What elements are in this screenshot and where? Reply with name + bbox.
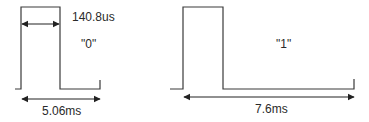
bit1-period-label: 7.6ms <box>255 102 288 116</box>
bit0-waveform: 140.8us "0" 5.06ms <box>15 7 115 118</box>
bit-encoding-diagram: 140.8us "0" 5.06ms "1" 7.6ms <box>0 0 369 122</box>
bit1-label: "1" <box>276 37 291 51</box>
bit1-pulse-line <box>170 7 354 89</box>
bit0-label: "0" <box>81 37 96 51</box>
bit0-period-label: 5.06ms <box>42 104 81 118</box>
bit1-waveform: "1" 7.6ms <box>170 7 354 116</box>
bit0-pulse-width-label: 140.8us <box>72 10 115 24</box>
